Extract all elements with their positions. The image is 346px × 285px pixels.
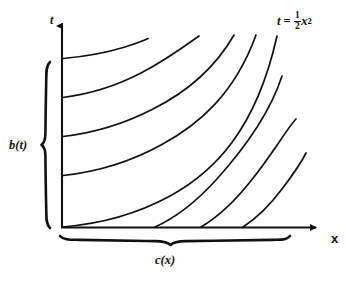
equation-label: t = 1 2 x 2	[277, 11, 312, 32]
bottom-brace	[60, 236, 290, 245]
equation-exponent: 2	[308, 17, 312, 26]
c-of-x-label: c(x)	[155, 254, 175, 267]
characteristic-curve-7	[201, 119, 296, 227]
fraction-denominator: 2	[294, 21, 301, 32]
t-axis-label: t	[50, 14, 53, 26]
equation-fraction: 1 2	[294, 11, 301, 32]
b-of-t-label: b(t)	[9, 139, 27, 152]
fraction-numerator: 1	[294, 11, 301, 21]
left-brace	[42, 62, 51, 228]
characteristic-curve-6	[155, 76, 282, 227]
characteristic-curves-group	[62, 35, 306, 227]
x-axis-label: x	[331, 232, 338, 245]
characteristic-curve-1	[63, 39, 148, 59]
equation-equals: =	[283, 15, 290, 28]
characteristics-diagram	[0, 0, 346, 285]
figure-container: t x b(t) c(x) t = 1 2 x 2	[0, 0, 346, 285]
characteristic-curve-8	[243, 153, 306, 227]
equation-lhs: t	[277, 15, 280, 28]
characteristic-curve-3	[63, 35, 234, 137]
